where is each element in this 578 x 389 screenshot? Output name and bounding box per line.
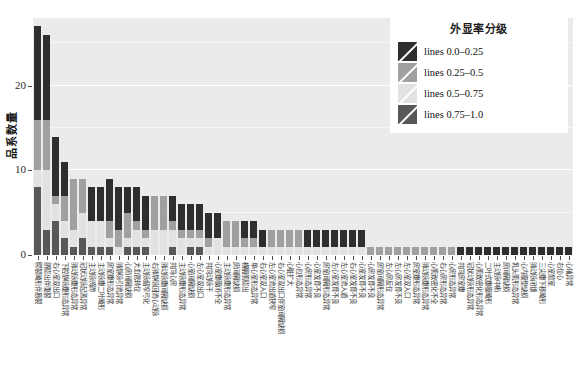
bar <box>439 247 446 255</box>
legend-swatch-line <box>398 84 417 103</box>
x-axis-tick-label: 脐膨出伴腹裂 <box>43 262 49 298</box>
bar <box>412 247 419 255</box>
x-axis-tick-label: 心室瓣膜闭不全 <box>214 262 220 304</box>
x-axis-tick <box>137 256 138 260</box>
bar-segment <box>250 221 257 238</box>
bar-segment <box>241 221 248 238</box>
bar-segment <box>475 247 482 255</box>
bar-segment <box>70 247 77 255</box>
bar-segment <box>196 238 203 246</box>
bar-segment <box>61 196 68 221</box>
legend-item[interactable]: lines 0.75–1.0 <box>398 104 560 125</box>
bar-segment <box>142 238 149 246</box>
x-axis-tick-label: 左心房发育不良 <box>394 262 400 304</box>
bar <box>160 196 167 255</box>
bar-segment <box>124 247 131 255</box>
bar-segment <box>61 162 68 196</box>
bar-segment <box>340 230 347 247</box>
legend-item[interactable]: lines 0.25–0.5 <box>398 62 560 83</box>
bar-segment <box>187 230 194 238</box>
bar-segment <box>124 213 131 238</box>
x-axis-tick-label: 主动脉瓣形态异常 <box>178 262 184 310</box>
x-axis-tick <box>110 256 111 260</box>
x-axis-tick-label: 主动脉瓣二叶畸形 <box>97 262 103 310</box>
legend-item[interactable]: lines 0.5–0.75 <box>398 83 560 104</box>
bar-segment <box>196 230 203 238</box>
x-axis-tick <box>407 256 408 260</box>
bar-segment <box>250 247 257 255</box>
x-axis-tick <box>569 256 570 260</box>
bar-segment <box>133 247 140 255</box>
bar <box>313 230 320 255</box>
bar <box>394 247 401 255</box>
x-axis-tick <box>317 256 318 260</box>
x-axis-tick <box>83 256 84 260</box>
bar-segment <box>448 247 455 255</box>
bar-segment <box>196 204 203 229</box>
bar-segment <box>43 35 50 120</box>
x-axis-tick-label: 右心室双出口伴室间隔缺损 <box>277 262 283 334</box>
bar-segment <box>439 247 446 255</box>
x-axis-tick <box>119 256 120 260</box>
bar-segment <box>187 204 194 229</box>
bar-segment <box>259 230 266 247</box>
x-axis-tick-label: 肺动脉瓣形态异常 <box>70 262 76 310</box>
bar-segment <box>106 247 113 255</box>
bar <box>223 221 230 255</box>
x-axis-tick <box>191 256 192 260</box>
bar-segment <box>484 247 491 255</box>
bar <box>484 247 491 255</box>
y-axis-tick-label: 10 <box>0 163 26 175</box>
x-axis-tick-label: 心脏扩大 <box>286 262 292 286</box>
x-axis-tick <box>308 256 309 260</box>
bar-segment <box>277 247 284 255</box>
bar <box>70 179 77 255</box>
bar-segment <box>556 247 563 255</box>
bar-segment <box>97 187 104 221</box>
bar <box>196 204 203 255</box>
bar-segment <box>295 247 302 255</box>
x-axis-tick-label: 二叶式瓣膜畸形 <box>484 262 490 304</box>
x-axis-tick <box>533 256 534 260</box>
bar <box>43 35 50 255</box>
bar-segment <box>160 230 167 255</box>
bar-segment <box>187 238 194 246</box>
legend-swatch <box>398 42 417 61</box>
x-axis-tick-label: 心室发育不良 <box>313 262 319 298</box>
bar-segment <box>232 221 239 246</box>
x-axis-tick-label: 肺动脉瓣形态异常 <box>421 262 427 310</box>
bar-segment <box>331 230 338 247</box>
bar-segment <box>358 247 365 255</box>
bar <box>538 247 545 255</box>
bar-segment <box>529 247 536 255</box>
x-axis-tick <box>263 256 264 260</box>
x-axis-tick <box>497 256 498 260</box>
x-axis-tick <box>173 256 174 260</box>
x-axis-tick <box>254 256 255 260</box>
x-axis-tick-label: 左心室发育不良 <box>331 262 337 304</box>
bar-segment <box>52 204 59 221</box>
legend-items: lines 0.0–0.25lines 0.25–0.5lines 0.5–0.… <box>398 41 560 125</box>
x-axis-tick-label: 右心室双出口 <box>52 262 58 298</box>
bar-segment <box>43 230 50 255</box>
bar-segment <box>34 187 41 255</box>
x-axis-tick <box>470 256 471 260</box>
legend-item[interactable]: lines 0.0–0.25 <box>398 41 560 62</box>
bar-segment <box>412 247 419 255</box>
y-axis-tick-label: 0 <box>0 248 26 260</box>
bar <box>547 247 554 255</box>
x-axis-tick <box>488 256 489 260</box>
bar-segment <box>205 213 212 238</box>
x-axis-tick <box>389 256 390 260</box>
bar <box>349 230 356 255</box>
legend-swatch <box>398 63 417 82</box>
x-axis-tick-label: 主动脉骑跨 <box>88 262 94 292</box>
x-axis-tick <box>335 256 336 260</box>
bar-segment <box>259 247 266 255</box>
bar <box>556 247 563 255</box>
x-axis-tick <box>272 256 273 260</box>
bar-segment <box>349 230 356 247</box>
bar <box>358 230 365 255</box>
bar-segment <box>295 230 302 247</box>
x-axis-tick-label: 心肌致密化形态异常 <box>475 262 481 316</box>
